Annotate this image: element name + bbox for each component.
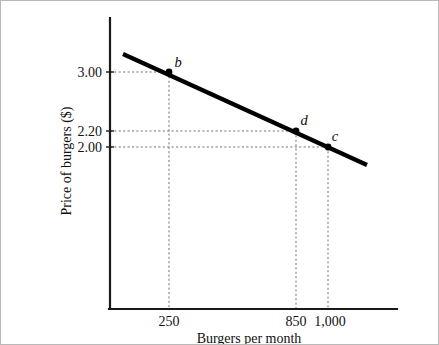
- data-point-b: [166, 69, 173, 76]
- demand-curve-figure: 3.00 2.20 2.00 250 850 1,000 b d c Burge…: [0, 0, 439, 345]
- data-point-c: [325, 144, 332, 151]
- x-axis-title: Burgers per month: [197, 331, 302, 345]
- y-tick-label-2-00: 2.00: [78, 140, 103, 155]
- x-axis-ticks: 250 850 1,000: [159, 314, 346, 329]
- axes: [109, 18, 397, 309]
- point-label-d: d: [300, 112, 308, 128]
- y-tick-label-2-20: 2.20: [78, 124, 103, 139]
- guide-lines: [110, 72, 328, 309]
- point-label-c: c: [332, 128, 339, 144]
- chart-canvas: 3.00 2.20 2.00 250 850 1,000 b d c Burge…: [1, 1, 439, 345]
- x-tick-label-1000: 1,000: [314, 314, 346, 329]
- y-axis-title: Price of burgers ($): [59, 106, 75, 215]
- point-label-b: b: [174, 54, 181, 70]
- x-tick-label-850: 850: [286, 314, 307, 329]
- y-axis-ticks: 3.00 2.20 2.00: [78, 65, 115, 155]
- y-tick-label-3-00: 3.00: [78, 65, 103, 80]
- x-tick-label-250: 250: [159, 314, 180, 329]
- data-point-d: [293, 128, 300, 135]
